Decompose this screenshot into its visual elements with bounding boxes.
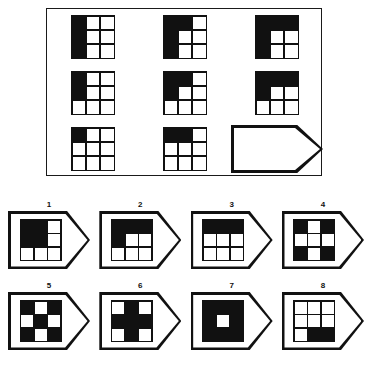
answer-option-5[interactable]: 5 xyxy=(6,281,92,350)
answer-option-glyph xyxy=(111,219,153,261)
glyph-square-r3-c1 xyxy=(73,45,86,58)
glyph-square-r3-c2 xyxy=(35,329,47,341)
glyph-square-r1-c3 xyxy=(101,73,114,86)
glyph-square-r2-c1 xyxy=(257,31,270,44)
matrix-glyph xyxy=(163,15,207,59)
answer-option-label: 8 xyxy=(321,281,325,292)
glyph-square-r1-c3 xyxy=(322,302,334,314)
answer-option-tag[interactable] xyxy=(191,292,273,350)
answer-option-glyph xyxy=(111,300,153,342)
glyph-square-r2-c2 xyxy=(87,143,100,156)
glyph-square-r1-c1 xyxy=(295,302,307,314)
glyph-square-r1-c3 xyxy=(48,302,60,314)
glyph-square-r1-c2 xyxy=(179,73,192,86)
answer-option-tag-inner xyxy=(102,295,179,348)
answer-option-tag[interactable] xyxy=(282,292,364,350)
glyph-square-r3-c3 xyxy=(285,45,298,58)
glyph-square-r3-c3 xyxy=(48,329,60,341)
glyph-square-r3-c3 xyxy=(322,248,334,260)
answer-option-4[interactable]: 4 xyxy=(280,200,366,269)
answer-option-6[interactable]: 6 xyxy=(97,281,183,350)
glyph-square-r1-c2 xyxy=(308,221,320,233)
glyph-square-r2-c1 xyxy=(73,31,86,44)
glyph-square-r1-c3 xyxy=(139,302,151,314)
answer-option-tag[interactable] xyxy=(8,211,90,269)
glyph-square-r1-c3 xyxy=(193,17,206,30)
glyph-square-r2-c1 xyxy=(73,143,86,156)
glyph-square-r2-c3 xyxy=(322,315,334,327)
glyph-square-r3-c1 xyxy=(21,329,33,341)
glyph-square-r1-c1 xyxy=(73,129,86,142)
glyph-square-r2-c1 xyxy=(165,143,178,156)
glyph-square-r1-c1 xyxy=(165,73,178,86)
glyph-square-r2-c3 xyxy=(193,87,206,100)
answer-option-tag-inner xyxy=(284,295,361,348)
blank-answer-slot[interactable] xyxy=(231,125,323,173)
glyph-square-r2-c2 xyxy=(87,31,100,44)
glyph-square-r1-c3 xyxy=(322,221,334,233)
glyph-square-r3-c3 xyxy=(231,329,243,341)
glyph-square-r3-c1 xyxy=(257,101,270,114)
glyph-square-r1-c3 xyxy=(101,129,114,142)
answer-options-row-top: 1 2 3 4 xyxy=(6,200,366,281)
glyph-square-r3-c2 xyxy=(217,248,229,260)
answer-option-7[interactable]: 7 xyxy=(189,281,275,350)
glyph-square-r1-c3 xyxy=(285,73,298,86)
answer-option-2[interactable]: 2 xyxy=(97,200,183,269)
answer-option-tag[interactable] xyxy=(99,211,181,269)
glyph-square-r2-c3 xyxy=(322,234,334,246)
glyph-square-r2-c3 xyxy=(193,31,206,44)
glyph-square-r3-c1 xyxy=(165,45,178,58)
answer-option-1[interactable]: 1 xyxy=(6,200,92,269)
glyph-square-r3-c3 xyxy=(322,329,334,341)
glyph-square-r1-c3 xyxy=(231,221,243,233)
glyph-square-r1-c2 xyxy=(217,221,229,233)
glyph-square-r3-c2 xyxy=(126,248,138,260)
matrix-panel xyxy=(46,8,322,176)
glyph-square-r1-c1 xyxy=(165,17,178,30)
answer-option-tag[interactable] xyxy=(99,292,181,350)
glyph-square-r3-c3 xyxy=(193,157,206,170)
answer-option-tag-inner xyxy=(11,214,88,267)
glyph-square-r1-c1 xyxy=(21,221,33,233)
glyph-square-r1-c2 xyxy=(87,129,100,142)
glyph-square-r2-c2 xyxy=(126,234,138,246)
matrix-cell-row3-col2 xyxy=(139,121,231,177)
glyph-square-r3-c3 xyxy=(193,45,206,58)
answer-option-tag[interactable] xyxy=(282,211,364,269)
glyph-square-r3-c3 xyxy=(285,101,298,114)
glyph-square-r3-c2 xyxy=(217,329,229,341)
answer-option-3[interactable]: 3 xyxy=(189,200,275,269)
glyph-square-r3-c2 xyxy=(271,45,284,58)
glyph-square-r1-c3 xyxy=(231,302,243,314)
glyph-square-r3-c1 xyxy=(165,157,178,170)
glyph-square-r1-c1 xyxy=(295,221,307,233)
glyph-square-r2-c1 xyxy=(21,315,33,327)
blank-answer-slot-inner xyxy=(234,128,320,170)
glyph-square-r3-c1 xyxy=(204,329,216,341)
glyph-square-r3-c3 xyxy=(139,248,151,260)
glyph-square-r2-c2 xyxy=(179,31,192,44)
glyph-square-r3-c1 xyxy=(73,101,86,114)
answer-option-label: 4 xyxy=(321,200,325,211)
glyph-square-r2-c1 xyxy=(112,315,124,327)
matrix-grid xyxy=(47,9,323,177)
answer-option-tag[interactable] xyxy=(191,211,273,269)
glyph-square-r2-c3 xyxy=(285,31,298,44)
answer-option-tag[interactable] xyxy=(8,292,90,350)
glyph-square-r2-c3 xyxy=(285,87,298,100)
matrix-cell-row3-col1 xyxy=(47,121,139,177)
glyph-square-r2-c2 xyxy=(179,87,192,100)
glyph-square-r3-c2 xyxy=(87,101,100,114)
glyph-square-r2-c2 xyxy=(217,234,229,246)
glyph-square-r1-c1 xyxy=(165,129,178,142)
glyph-square-r1-c2 xyxy=(271,17,284,30)
glyph-square-r2-c1 xyxy=(165,31,178,44)
glyph-square-r2-c1 xyxy=(73,87,86,100)
answer-option-glyph xyxy=(20,219,62,261)
glyph-square-r3-c1 xyxy=(112,248,124,260)
matrix-cell-row1-col1 xyxy=(47,9,139,65)
glyph-square-r3-c2 xyxy=(87,157,100,170)
answer-option-8[interactable]: 8 xyxy=(280,281,366,350)
glyph-square-r3-c1 xyxy=(295,329,307,341)
